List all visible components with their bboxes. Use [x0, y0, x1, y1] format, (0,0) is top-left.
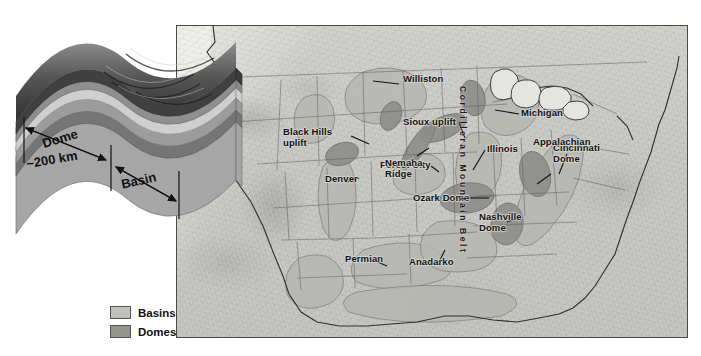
map-label-nemaha: Nemaha Ridge	[385, 158, 423, 179]
map-legend: Basins Domes	[110, 303, 178, 341]
map-label-appalachian: Appalachian	[533, 137, 591, 148]
permian-basin	[286, 255, 344, 308]
scale-annotation-group: Dome ~200 km Basin	[0, 115, 180, 225]
map-label-cordilleran-mountain-belt: Cordilleran Mountain Belt	[458, 86, 468, 254]
legend-item-domes: Domes	[110, 322, 178, 341]
figure-root: Williston Black Hills uplift Sioux uplif…	[0, 0, 701, 356]
block-right-face	[236, 68, 242, 186]
leader-black-hills	[351, 136, 369, 144]
map-label-permian: Permian	[345, 254, 383, 265]
legend-item-basins: Basins	[110, 303, 178, 322]
legend-label-basins: Basins	[138, 307, 176, 319]
geologic-map-panel: Williston Black Hills uplift Sioux uplif…	[176, 25, 688, 338]
map-label-black-hills: Black Hills uplift	[283, 127, 332, 148]
map-label-williston: Williston	[403, 74, 443, 85]
legend-swatch-domes	[110, 325, 131, 338]
denver-basin	[318, 157, 356, 240]
map-label-nashville: Nashville Dome	[479, 212, 522, 233]
map-label-anadarko: Anadarko	[409, 257, 454, 268]
legend-label-domes: Domes	[138, 326, 176, 338]
map-label-michigan: Michigan	[521, 108, 563, 119]
map-label-sioux: Sioux uplift	[403, 117, 456, 128]
map-label-denver: Denver	[325, 174, 358, 185]
gulf-coast-basin	[344, 285, 517, 322]
map-label-illinois: Illinois	[487, 144, 518, 155]
legend-swatch-basins	[110, 306, 131, 319]
